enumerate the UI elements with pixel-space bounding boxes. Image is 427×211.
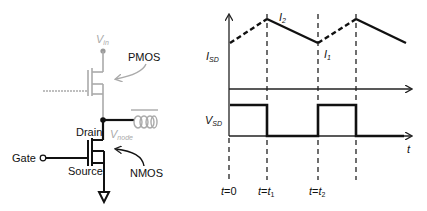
- vnode-label: Vnode: [110, 128, 133, 141]
- inductor-icon: [131, 110, 158, 128]
- vsd-waveform: [230, 105, 404, 136]
- buck-circuit: Vin PMOS Vnode Drain: [12, 33, 163, 202]
- isd-label: ISD: [206, 50, 219, 63]
- x-axis-label: t: [407, 143, 411, 155]
- pmos-transistor: [43, 51, 103, 120]
- i2-annotation: I2: [279, 11, 286, 24]
- isd-waveform: [230, 19, 406, 43]
- nmos-pointer-arrow: [116, 149, 144, 166]
- vsd-label: VSD: [205, 114, 222, 127]
- tick-t2: t=t2: [309, 185, 326, 198]
- tick-t0: t=0: [221, 185, 237, 197]
- node-dot: [100, 117, 106, 123]
- pmos-pointer-arrow: [116, 64, 146, 79]
- source-label: Source: [68, 165, 103, 177]
- drain-label: Drain: [76, 126, 102, 138]
- vin-label: Vin: [96, 33, 109, 46]
- i1-annotation: I1: [324, 48, 331, 61]
- pmos-label: PMOS: [128, 51, 160, 63]
- waveform-chart: I2 I1 ISD VSD t t=0 t=t1 t=t2: [205, 11, 411, 198]
- gate-label: Gate: [12, 152, 36, 164]
- tick-t1: t=t1: [258, 185, 275, 198]
- time-markers: [229, 14, 356, 180]
- nmos-label: NMOS: [130, 167, 163, 179]
- gate-terminal: [40, 155, 46, 161]
- diagram: Vin PMOS Vnode Drain: [0, 0, 427, 211]
- ground-icon: [99, 192, 109, 202]
